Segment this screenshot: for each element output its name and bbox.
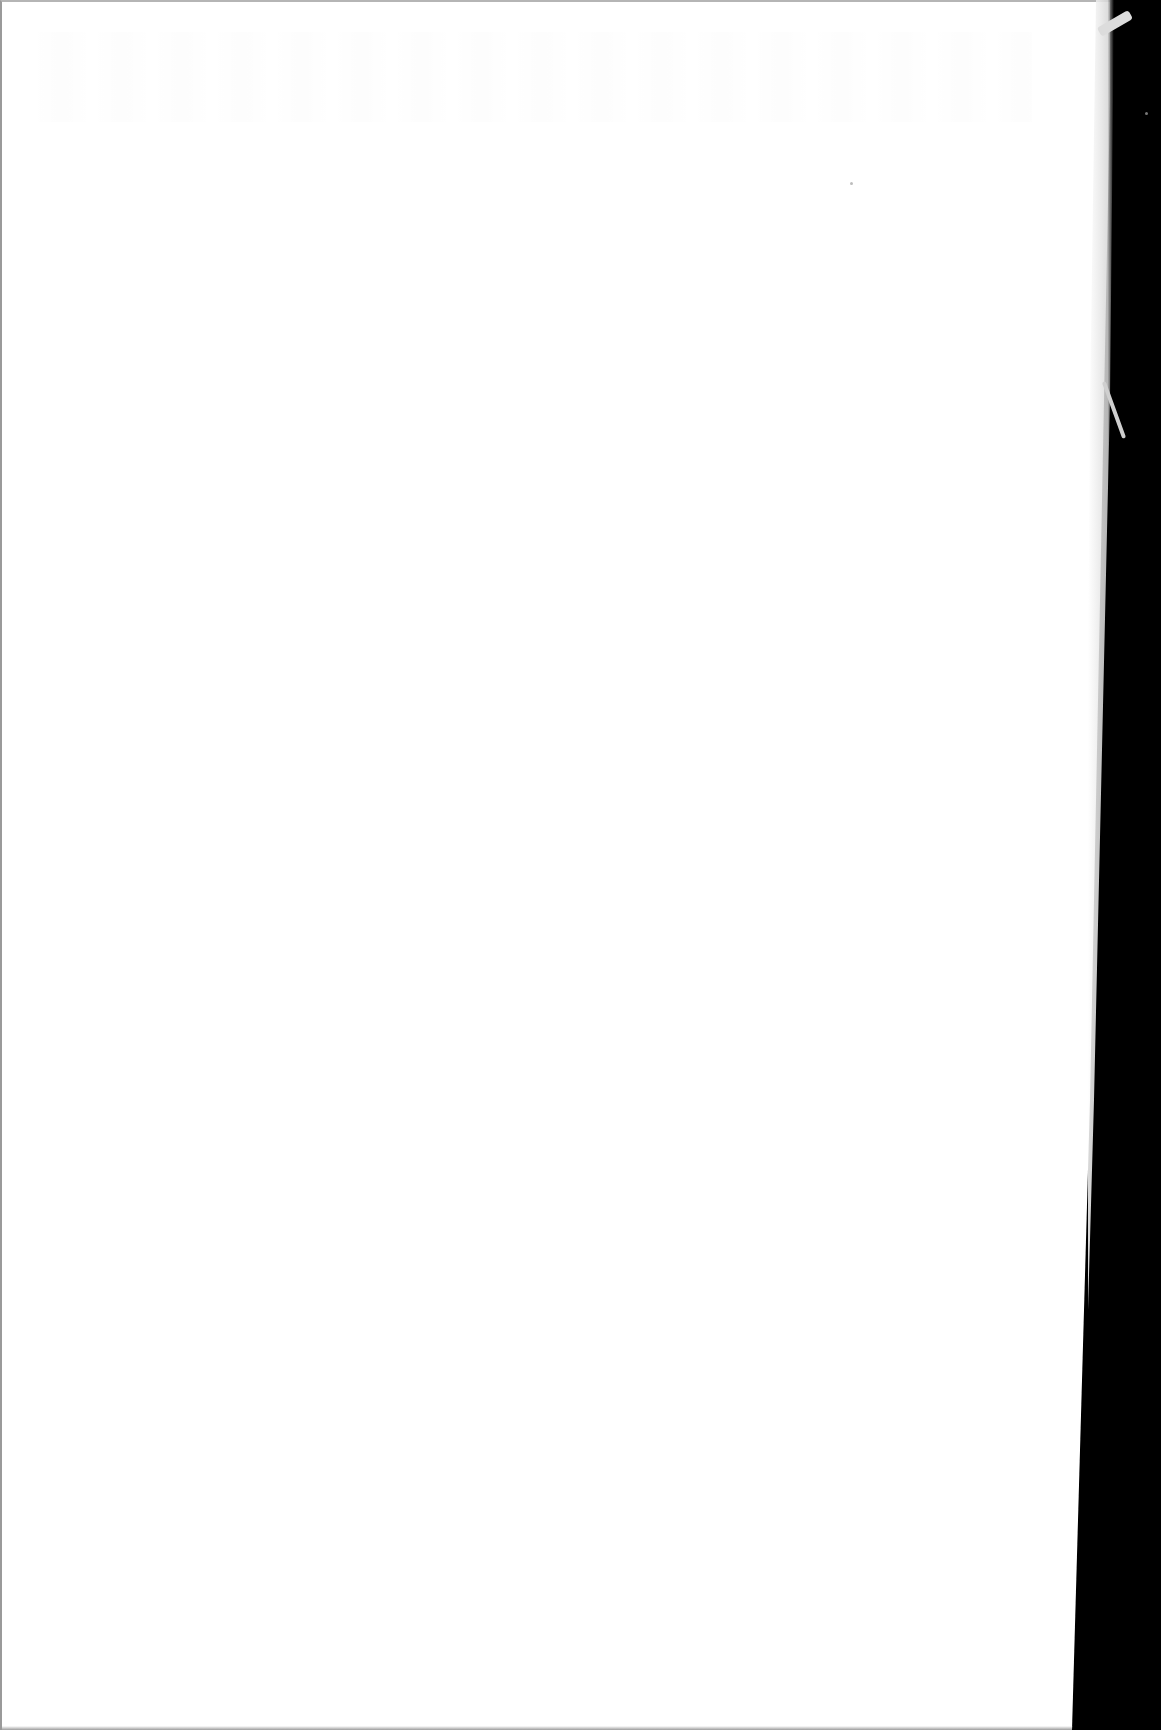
blank-page bbox=[0, 0, 1110, 1730]
page-bottom-edge bbox=[2, 1726, 1074, 1730]
bleed-through-shadow bbox=[32, 32, 1032, 122]
scanned-document-view bbox=[0, 0, 1161, 1730]
dust-speck bbox=[850, 182, 853, 185]
dust-speck bbox=[1145, 112, 1148, 115]
